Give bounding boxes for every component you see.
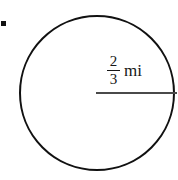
geometry-figure: 2 3 mi — [0, 0, 178, 180]
circle-diagram-svg — [0, 0, 178, 180]
unit-label: mi — [124, 62, 142, 79]
bullet-point-marker — [1, 21, 6, 26]
fraction-denominator: 3 — [109, 71, 119, 87]
fraction-numerator: 2 — [109, 54, 119, 70]
radius-measurement-label: 2 3 mi — [107, 54, 142, 87]
fraction-two-thirds: 2 3 — [107, 54, 120, 87]
